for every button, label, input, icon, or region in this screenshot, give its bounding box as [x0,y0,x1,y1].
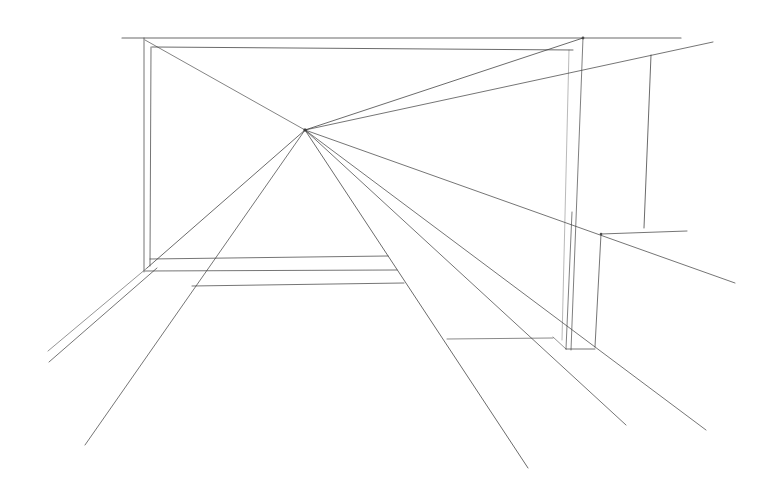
corner-mark-box [600,233,603,236]
box-top-right [601,231,687,234]
diag-topleft-to-vp [145,40,305,130]
floor-left-edge-2 [49,268,157,362]
ray-right-mid [305,130,735,283]
frame-inner-top [152,47,573,50]
vanishing-point-mark [303,128,307,132]
ray-left-wall-1 [147,130,305,268]
long-ray-upper-right [305,42,713,130]
floor-line-3 [192,283,404,286]
floor-left-edge-1 [48,268,147,351]
frame-right-outer [571,38,583,350]
corner-mark-top-right [582,37,585,40]
diag-topright-to-vp [305,38,583,130]
frame-inner-left [150,47,151,266]
box-base-diagonal [553,337,566,349]
box-right-vertical [595,234,601,347]
floor-short-horizontal [447,338,553,339]
floor-line-1 [150,256,388,259]
perspective-sketch-canvas [0,0,778,498]
ray-bottom-left [85,130,305,445]
box-left-vertical [566,212,572,349]
right-vertical-marker [644,55,651,228]
ray-bottom-center [305,130,528,468]
floor-line-2 [145,270,397,271]
sketch-svg [0,0,778,498]
